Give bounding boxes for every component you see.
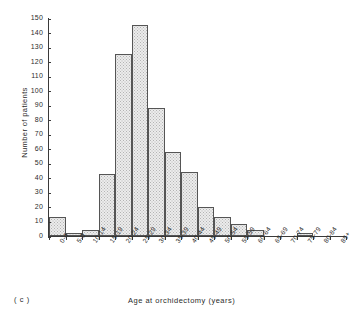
y-tick-mark: [48, 77, 51, 78]
y-tick-mark: [48, 193, 51, 194]
y-tick-label: 10: [35, 217, 43, 224]
y-tick-mark: [48, 33, 51, 34]
y-tick-label: 90: [35, 101, 43, 108]
y-tick-label: 60: [35, 145, 43, 152]
y-tick-label: 0: [39, 232, 43, 239]
y-tick-mark: [48, 19, 51, 20]
y-tick-label: 120: [31, 58, 43, 65]
y-tick-mark: [48, 222, 51, 223]
y-tick-mark: [48, 91, 51, 92]
y-tick-mark: [48, 178, 51, 179]
y-tick-label: 50: [35, 159, 43, 166]
y-axis-title: Number of patients: [20, 53, 29, 193]
histogram-bar: [148, 108, 165, 236]
y-tick-label: 80: [35, 116, 43, 123]
y-tick-mark: [48, 48, 51, 49]
y-tick-label: 70: [35, 130, 43, 137]
y-tick-label: 20: [35, 203, 43, 210]
plot-area: 0102030405060708090100110120130140150 0-…: [48, 18, 346, 237]
y-tick-label: 130: [31, 43, 43, 50]
y-tick-mark: [48, 120, 51, 121]
y-tick-mark: [48, 207, 51, 208]
y-tick-mark: [48, 164, 51, 165]
y-tick-label: 100: [31, 87, 43, 94]
y-tick-label: 40: [35, 174, 43, 181]
y-tick-label: 30: [35, 188, 43, 195]
y-tick-mark: [48, 62, 51, 63]
bar-series: [49, 18, 346, 236]
y-tick-label: 110: [31, 72, 43, 79]
x-tick-mark: [49, 237, 50, 240]
panel-caption: ( c ): [14, 295, 30, 304]
histogram-bar: [132, 25, 149, 236]
y-tick-label: 140: [31, 29, 43, 36]
y-tick-mark: [48, 149, 51, 150]
y-tick-mark: [48, 135, 51, 136]
y-tick-label: 150: [31, 14, 43, 21]
histogram-bar: [115, 54, 132, 236]
x-axis-title: Age at orchidectomy (years): [128, 296, 235, 305]
histogram-bar: [165, 152, 182, 236]
histogram-figure: Number of patients 010203040506070809010…: [0, 0, 359, 319]
y-tick-mark: [48, 106, 51, 107]
